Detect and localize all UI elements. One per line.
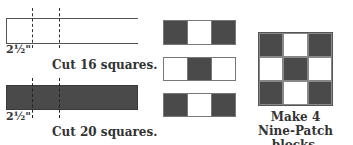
- square-dark: [164, 94, 187, 116]
- square-light: [283, 33, 307, 57]
- strip-set-row-1: [163, 20, 236, 45]
- block-caption: Make 4 Nine-Patch blocks.: [238, 110, 353, 145]
- square-dark: [259, 33, 283, 57]
- square-light: [164, 58, 187, 80]
- square-dark: [211, 21, 235, 44]
- square-dark: [211, 94, 235, 116]
- square-dark: [283, 57, 307, 81]
- square-light: [308, 57, 332, 81]
- strip-set-row-3: [163, 93, 236, 117]
- nine-patch-block: [258, 32, 333, 106]
- cut-line-dashed: [32, 78, 33, 118]
- square-dark: [164, 21, 187, 44]
- square-light: [187, 21, 211, 44]
- square-light: [259, 57, 283, 81]
- cut-dark-caption: Cut 20 squares.: [52, 125, 157, 139]
- block-caption-line2: Nine-Patch blocks.: [238, 124, 353, 145]
- square-dark: [308, 81, 332, 105]
- square-light: [211, 58, 235, 80]
- strip-width-label: 2½": [6, 110, 31, 123]
- square-dark: [259, 81, 283, 105]
- cut-line-dashed: [32, 8, 33, 48]
- block-caption-line1: Make 4: [238, 110, 353, 124]
- light-fabric-strip: [6, 18, 138, 44]
- cut-light-caption: Cut 16 squares.: [52, 58, 157, 72]
- strip-width-label: 2½": [6, 43, 31, 56]
- square-light: [187, 94, 211, 116]
- dark-fabric-strip: [6, 85, 138, 110]
- cut-line-dashed: [59, 78, 60, 118]
- square-light: [283, 81, 307, 105]
- square-dark: [187, 58, 211, 80]
- strip-set-row-2: [163, 57, 236, 81]
- square-dark: [308, 33, 332, 57]
- cut-line-dashed: [59, 8, 60, 48]
